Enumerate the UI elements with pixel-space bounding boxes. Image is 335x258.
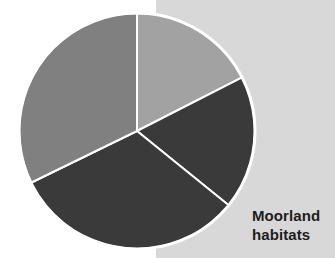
chart-caption: Moorland habitats (252, 206, 334, 244)
caption-line-1: Moorland (252, 206, 334, 225)
caption-line-2: habitats (252, 225, 334, 244)
figure-canvas: Moorland habitats (0, 0, 335, 258)
